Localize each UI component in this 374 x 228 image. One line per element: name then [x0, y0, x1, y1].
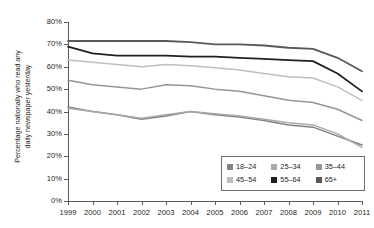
- y-tick-label: 10%: [28, 174, 62, 183]
- legend-item[interactable]: 35–44: [316, 162, 360, 171]
- series-line-25-34: [68, 108, 362, 147]
- x-tick: [313, 201, 314, 205]
- legend-row: 18–2425–3435–44: [227, 160, 360, 173]
- legend-label: 25–34: [280, 162, 300, 171]
- legend: 18–2425–3435–44 45–5455–6465+: [221, 156, 365, 191]
- x-tick: [142, 201, 143, 205]
- y-tick-label: 0%: [28, 196, 62, 205]
- newspaper-readership-line-chart: Percentage nationally who read any daily…: [0, 0, 374, 228]
- legend-swatch-icon: [227, 177, 233, 183]
- x-tick: [240, 201, 241, 205]
- x-tick: [264, 201, 265, 205]
- y-tick-label: 30%: [28, 129, 62, 138]
- x-tick: [289, 201, 290, 205]
- x-tick: [166, 201, 167, 205]
- x-tick: [362, 201, 363, 205]
- x-tick: [117, 201, 118, 205]
- legend-swatch-icon: [316, 177, 322, 183]
- legend-label: 35–44: [325, 162, 345, 171]
- legend-item[interactable]: 45–54: [227, 175, 271, 184]
- legend-label: 55–64: [280, 175, 300, 184]
- y-tick-label: 80%: [28, 17, 62, 26]
- y-tick-label: 50%: [28, 84, 62, 93]
- y-tick-label: 60%: [28, 62, 62, 71]
- x-tick: [191, 201, 192, 205]
- legend-item[interactable]: 55–64: [271, 175, 315, 184]
- legend-swatch-icon: [316, 164, 322, 170]
- legend-item[interactable]: 65+: [316, 175, 360, 184]
- legend-label: 65+: [325, 175, 337, 184]
- legend-row: 45–5455–6465+: [227, 173, 360, 186]
- series-line-55-64: [68, 47, 362, 92]
- legend-swatch-icon: [271, 164, 277, 170]
- series-line-45-54: [68, 60, 362, 100]
- y-tick-label: 70%: [28, 39, 62, 48]
- legend-swatch-icon: [227, 164, 233, 170]
- x-tick: [338, 201, 339, 205]
- legend-item[interactable]: 25–34: [271, 162, 315, 171]
- x-tick: [93, 201, 94, 205]
- legend-swatch-icon: [271, 177, 277, 183]
- x-tick: [68, 201, 69, 205]
- y-tick-label: 40%: [28, 107, 62, 116]
- legend-item[interactable]: 18–24: [227, 162, 271, 171]
- legend-label: 45–54: [236, 175, 256, 184]
- x-tick-label: 2011: [342, 208, 374, 217]
- x-tick: [215, 201, 216, 205]
- legend-label: 18–24: [236, 162, 256, 171]
- y-tick-label: 20%: [28, 151, 62, 160]
